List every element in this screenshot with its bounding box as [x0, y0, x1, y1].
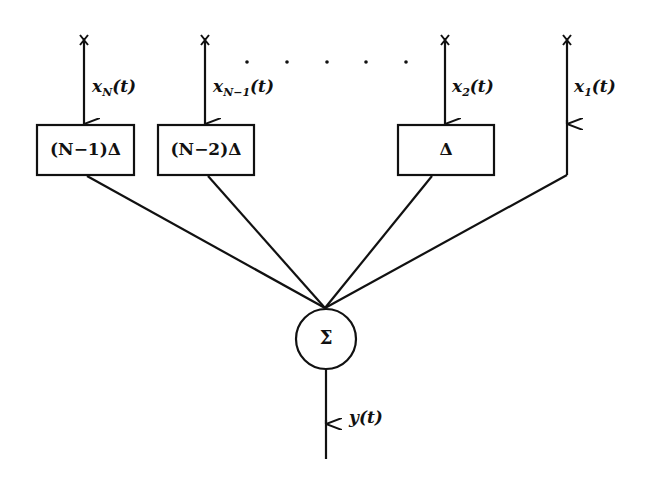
sensor-marker-icon [80, 35, 571, 45]
delay-label-n-1: (N−1)Δ [37, 141, 134, 158]
sigma-icon: Σ [296, 329, 356, 347]
ellipsis-dots [245, 60, 408, 64]
delay-label-n-2: (N−2)Δ [158, 141, 254, 158]
input-label-x1: x1(t) [574, 78, 616, 98]
delay-label-1: Δ [398, 141, 494, 158]
summing-lines [87, 175, 567, 308]
input-label-x2: x2(t) [452, 78, 494, 98]
output-label: y(t) [349, 409, 383, 426]
input-label-xN: xN(t) [92, 78, 136, 98]
diagram-canvas [0, 0, 658, 484]
input-label-xN-1: xN−1(t) [213, 78, 274, 98]
